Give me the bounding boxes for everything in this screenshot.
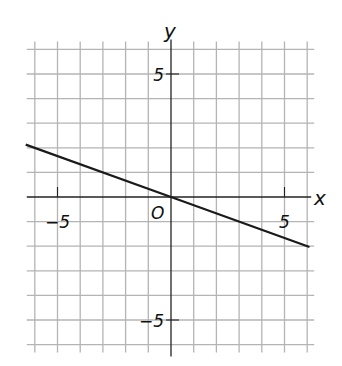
x-axis-label: x [313, 186, 326, 210]
x-tick-label: 5 [279, 212, 290, 232]
y-tick-label: 5 [153, 65, 164, 85]
y-tick-label: −5 [139, 311, 164, 331]
tick-labels: −555−5 [45, 65, 290, 331]
x-tick-label: −5 [45, 212, 70, 232]
coordinate-plane: x y O −555−5 [0, 0, 342, 366]
origin-label: O [151, 203, 164, 223]
y-axis-label: y [163, 19, 177, 43]
